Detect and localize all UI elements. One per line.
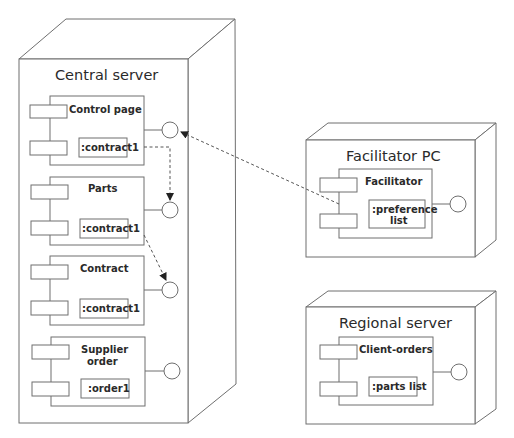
artifact-label: :parts list [372, 381, 427, 392]
component-tab-icon [320, 382, 357, 396]
component-name: Contract [80, 263, 129, 274]
node-facilitator-pc: Facilitator PC Facilitator :preference l… [306, 123, 496, 257]
component-tab-icon [31, 185, 68, 199]
component-name: Client-orders [359, 344, 433, 355]
component-tab-icon [30, 105, 67, 118]
node-title: Facilitator PC [346, 148, 441, 164]
interface-lollipop-icon[interactable] [450, 196, 466, 212]
node-side-face [188, 19, 236, 423]
node-central-server: Central server Control page :contract1 P… [19, 19, 236, 423]
node-side-face [475, 123, 496, 257]
interface-lollipop-icon[interactable] [164, 363, 180, 379]
component-name: order [87, 356, 118, 367]
artifact-label: :contract1 [82, 303, 140, 314]
interface-lollipop-icon[interactable] [451, 364, 467, 380]
artifact-label: :order1 [88, 383, 130, 394]
interface-lollipop-icon[interactable] [162, 122, 178, 138]
component-tab-icon [31, 221, 68, 235]
component-tab-icon [30, 141, 67, 155]
artifact-label: :contract1 [82, 223, 140, 234]
component-tab-icon [32, 382, 69, 396]
component-tab-icon [320, 214, 357, 228]
artifact-label: :contract1 [81, 142, 139, 153]
node-top-face [306, 291, 496, 307]
node-top-face [306, 123, 496, 140]
node-side-face [475, 291, 496, 424]
component-name: Control page [69, 104, 142, 115]
interface-lollipop-icon[interactable] [162, 202, 178, 218]
component-name: Facilitator [365, 176, 422, 187]
component-tab-icon [320, 178, 357, 192]
component-tab-icon [320, 345, 357, 359]
node-title: Central server [55, 67, 158, 83]
component-name: Supplier [81, 344, 128, 355]
artifact-label: list [390, 215, 408, 226]
node-title: Regional server [339, 315, 452, 331]
component-name: Parts [88, 183, 118, 194]
artifact-label: :preference [372, 204, 438, 215]
node-regional-server: Regional server Client-orders :parts lis… [306, 291, 496, 424]
component-tab-icon [31, 301, 68, 315]
component-tab-icon [31, 265, 68, 279]
interface-lollipop-icon[interactable] [162, 282, 178, 298]
component-tab-icon [32, 345, 69, 359]
